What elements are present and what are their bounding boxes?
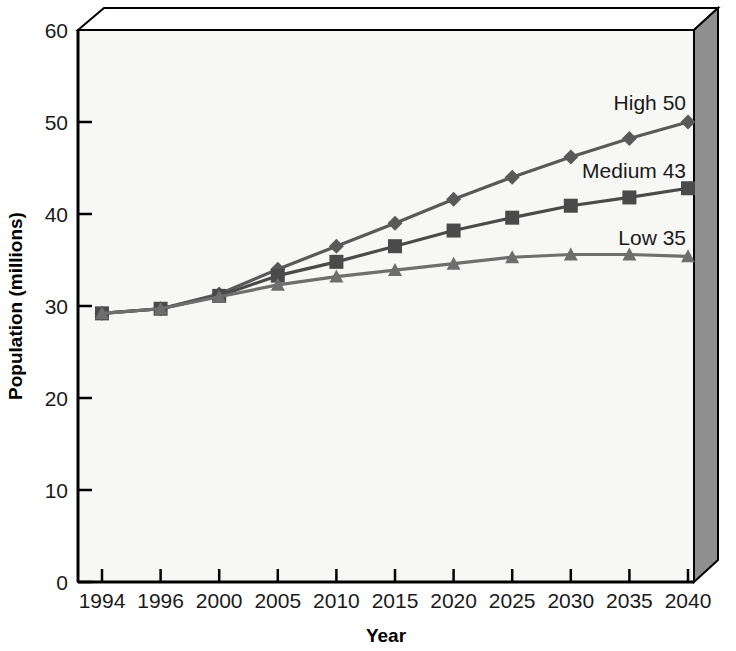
x-axis-tick-labels: 1994199620002005201020152020202520302035… [79, 589, 712, 612]
x-tick-label-2005: 2005 [254, 589, 301, 612]
y-tick-label-10: 10 [45, 479, 68, 502]
marker-medium-2035 [622, 190, 636, 204]
y-tick-label-50: 50 [45, 111, 68, 134]
marker-medium-2025 [505, 211, 519, 225]
x-tick-label-2015: 2015 [372, 589, 419, 612]
y-tick-label-60: 60 [45, 19, 68, 42]
x-tick-label-2000: 2000 [196, 589, 243, 612]
marker-medium-2010 [329, 255, 343, 269]
x-tick-label-2040: 2040 [665, 589, 712, 612]
marker-medium-2015 [388, 239, 402, 253]
chart-svg: 0 10 20 30 40 50 60 Population (millions… [0, 0, 736, 651]
y-tick-label-30: 30 [45, 295, 68, 318]
series-label-medium: Medium 43 [582, 159, 686, 182]
series-label-low: Low 35 [618, 226, 686, 249]
x-tick-label-1996: 1996 [137, 589, 184, 612]
plot-right-face [694, 8, 718, 582]
x-tick-label-2020: 2020 [430, 589, 477, 612]
y-tick-label-40: 40 [45, 203, 68, 226]
marker-medium-2040 [681, 181, 695, 195]
x-axis-title: Year [366, 625, 407, 646]
y-tick-label-0: 0 [56, 571, 68, 594]
x-tick-label-1994: 1994 [79, 589, 126, 612]
plot-top-face [78, 8, 718, 30]
x-tick-label-2010: 2010 [313, 589, 360, 612]
population-projection-chart: 0 10 20 30 40 50 60 Population (millions… [0, 0, 736, 651]
y-axis-title: Population (millions) [5, 212, 26, 400]
y-tick-label-20: 20 [45, 387, 68, 410]
x-tick-label-2030: 2030 [547, 589, 594, 612]
y-axis-tick-labels: 0 10 20 30 40 50 60 [45, 19, 68, 594]
marker-medium-2020 [447, 224, 461, 238]
marker-medium-2030 [564, 199, 578, 213]
series-label-high: High 50 [614, 91, 686, 114]
x-tick-label-2035: 2035 [606, 589, 653, 612]
x-tick-label-2025: 2025 [489, 589, 536, 612]
